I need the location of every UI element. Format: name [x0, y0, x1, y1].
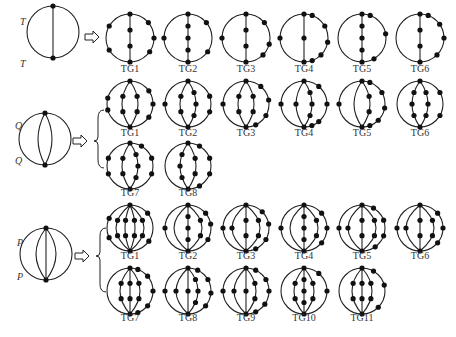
- inner-path: [125, 205, 130, 251]
- graph-node: [106, 171, 111, 176]
- graph-node: [127, 27, 132, 32]
- graph-node: [162, 288, 167, 293]
- graph-node: [319, 240, 324, 245]
- tg-label: TG2: [163, 250, 213, 261]
- inner-path: [362, 205, 376, 251]
- graph-node: [115, 218, 120, 223]
- graph-node: [325, 40, 330, 45]
- graph-node: [256, 218, 261, 223]
- tg-label: TG2: [163, 63, 213, 74]
- graph-node: [417, 43, 422, 48]
- graph-node: [252, 281, 257, 286]
- graph-node: [123, 233, 128, 238]
- graph-node: [266, 221, 271, 226]
- graph-node: [220, 288, 225, 293]
- tg-label: TG5: [337, 250, 387, 261]
- graph-node: [120, 171, 125, 176]
- graph-node: [382, 105, 387, 110]
- tg-label: TG6: [395, 250, 445, 261]
- source-q-bottom-label: Q: [15, 155, 22, 166]
- graph-node: [197, 143, 202, 148]
- graph-node: [149, 171, 154, 176]
- graph-node: [149, 156, 154, 161]
- graph-node: [105, 107, 110, 112]
- inner-path: [45, 113, 52, 165]
- graph-node: [359, 233, 364, 238]
- graph-node: [266, 97, 271, 102]
- graph-node: [267, 42, 272, 47]
- graph-node: [278, 101, 283, 106]
- graph-node: [191, 90, 196, 95]
- inner-path: [36, 228, 46, 280]
- graph-node: [193, 101, 198, 106]
- graph-node: [135, 163, 140, 168]
- graph-node: [314, 233, 319, 238]
- graph-node: [368, 13, 373, 18]
- graph-node: [293, 296, 298, 301]
- inner-path: [122, 81, 130, 127]
- graph-node: [195, 268, 200, 273]
- graph-node: [368, 281, 373, 286]
- graph-node: [140, 233, 145, 238]
- graph-node: [379, 90, 384, 95]
- graph-node: [376, 305, 381, 310]
- graph-node: [293, 101, 298, 106]
- graph-node: [322, 23, 327, 28]
- graph-node: [359, 202, 364, 207]
- graph-node: [417, 233, 422, 238]
- tg-label: TG2: [163, 127, 213, 138]
- graph-node: [324, 101, 329, 106]
- graph-node: [243, 78, 248, 83]
- graph-node: [203, 211, 208, 216]
- graph-node: [145, 211, 150, 216]
- graph-node: [236, 109, 241, 114]
- graph-node: [373, 244, 378, 249]
- graph-node: [136, 296, 141, 301]
- graph-node: [251, 109, 256, 114]
- graph-node: [120, 94, 125, 99]
- graph-node: [161, 35, 166, 40]
- graph-node: [381, 233, 386, 238]
- source-p-top-label: P: [17, 237, 23, 248]
- graph-node: [417, 218, 422, 223]
- figure-canvas: [0, 0, 456, 337]
- graph-node: [243, 27, 248, 32]
- graph-node: [243, 265, 248, 270]
- graph-node: [256, 233, 261, 238]
- outer-cycle: [165, 81, 211, 127]
- graph-node: [185, 225, 190, 230]
- graph-node: [185, 35, 190, 40]
- graph-node: [258, 84, 263, 89]
- graph-node: [231, 288, 236, 293]
- inner-path: [362, 81, 370, 127]
- graph-node: [319, 211, 324, 216]
- graph-node: [185, 11, 190, 16]
- graph-node: [43, 225, 48, 230]
- graph-node: [263, 237, 268, 242]
- graph-node: [119, 281, 124, 286]
- graph-node: [208, 290, 213, 295]
- graph-node: [359, 35, 364, 40]
- graph-node: [371, 268, 376, 273]
- graph-node: [107, 23, 112, 28]
- tg-label: TG4: [279, 250, 329, 261]
- graph-node: [133, 152, 138, 157]
- graph-node: [310, 13, 315, 18]
- graph-node: [173, 288, 178, 293]
- graph-node: [220, 225, 225, 230]
- graph-node: [185, 237, 190, 242]
- graph-node: [105, 95, 110, 100]
- graph-node: [316, 84, 321, 89]
- tg-label: TG9: [221, 312, 271, 323]
- graph-node: [417, 27, 422, 32]
- graph-node: [193, 171, 198, 176]
- graph-node: [437, 90, 442, 95]
- graph-node: [262, 302, 267, 307]
- graph-node: [185, 140, 190, 145]
- graph-node: [260, 52, 265, 57]
- graph-node: [301, 11, 306, 16]
- graph-node: [371, 56, 376, 61]
- graph-node: [359, 296, 364, 301]
- graph-node: [135, 267, 140, 272]
- graph-node: [426, 13, 431, 18]
